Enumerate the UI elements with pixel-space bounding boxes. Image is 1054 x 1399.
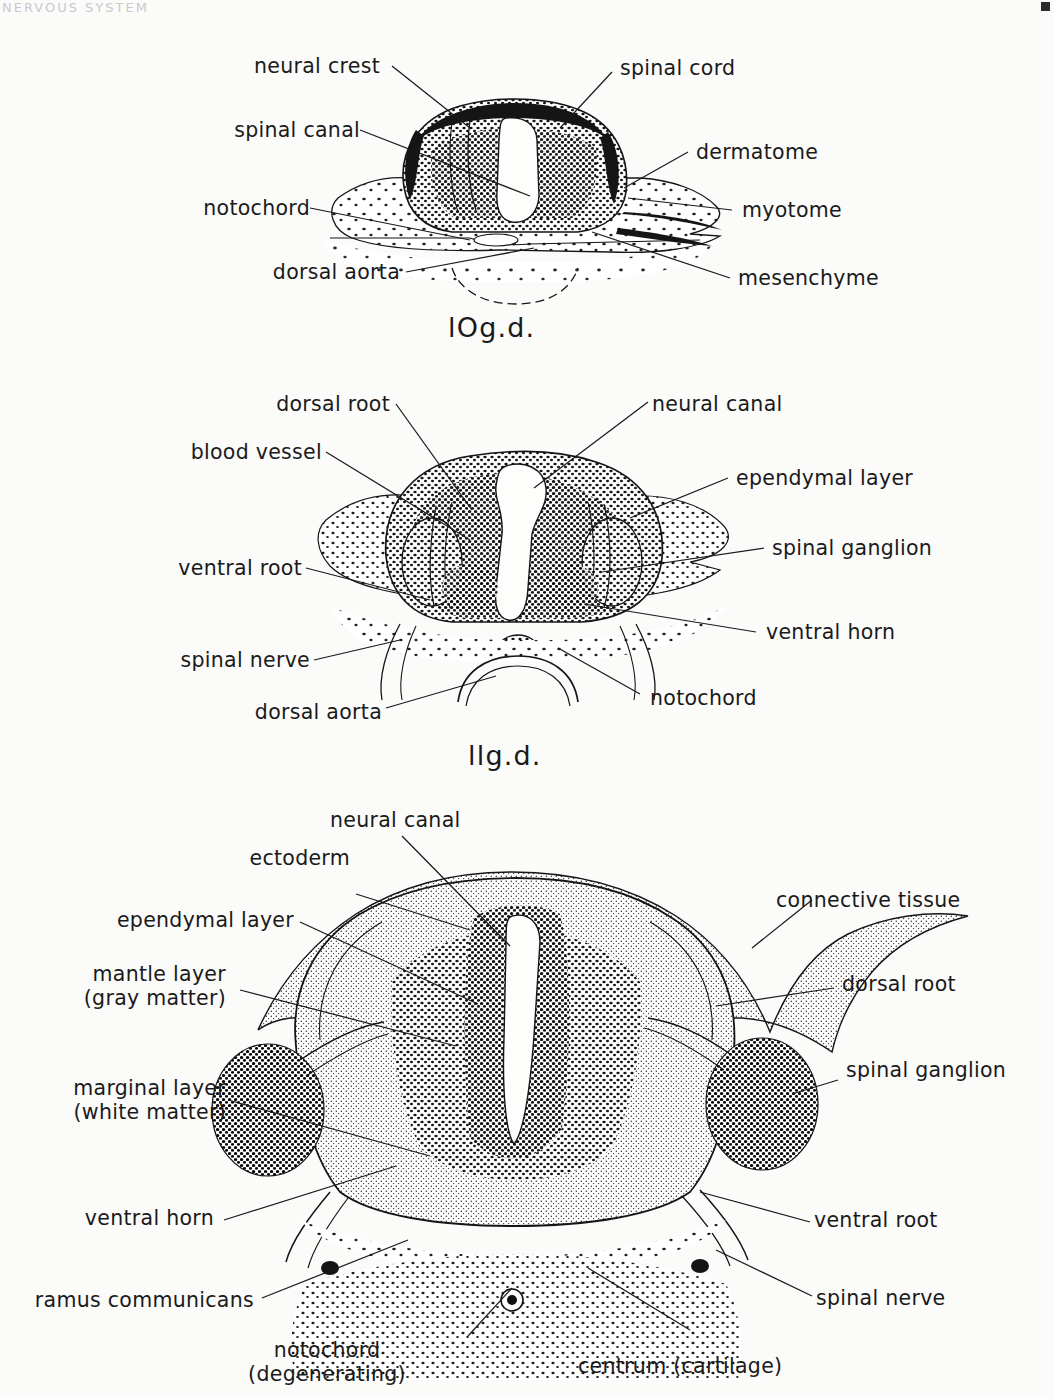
label-blood-vessel: blood vessel xyxy=(0,440,322,464)
label-neural-canal-3: neural canal xyxy=(330,808,460,832)
label-ependymal-layer-2: ependymal layer xyxy=(736,466,913,490)
label-ectoderm: ectoderm xyxy=(60,846,350,870)
figure-11gd-drawing xyxy=(318,451,728,706)
label-marginal-layer: marginal layer (white matter) xyxy=(0,1076,226,1124)
label-myotome: myotome xyxy=(742,198,842,222)
label-dorsal-root-3: dorsal root xyxy=(842,972,956,996)
label-spinal-canal: spinal canal xyxy=(20,118,360,142)
caption-11gd: llg.d. xyxy=(468,740,542,771)
label-mesenchyme: mesenchyme xyxy=(738,266,879,290)
label-spinal-ganglion-2: spinal ganglion xyxy=(772,536,932,560)
label-notochord-2: notochord xyxy=(650,686,757,710)
label-dorsal-root-2: dorsal root xyxy=(20,392,390,416)
label-notochord: notochord xyxy=(0,196,310,220)
label-spinal-nerve-3: spinal nerve xyxy=(816,1286,946,1310)
label-ventral-root-2: ventral root xyxy=(0,556,302,580)
label-ventral-root-3: ventral root xyxy=(814,1208,938,1232)
caption-10gd: lOg.d. xyxy=(448,312,535,343)
label-ramus-communicans: ramus communicans xyxy=(0,1288,254,1312)
label-dorsal-aorta: dorsal aorta xyxy=(60,260,400,284)
label-neural-crest: neural crest xyxy=(40,54,380,78)
label-mantle-layer: mantle layer (gray matter) xyxy=(0,962,226,1010)
label-notochord-degenerating: notochord (degenerating) xyxy=(202,1338,452,1386)
label-spinal-ganglion-3: spinal ganglion xyxy=(846,1058,1006,1082)
label-neural-canal-2: neural canal xyxy=(652,392,782,416)
label-spinal-nerve-2: spinal nerve xyxy=(0,648,310,672)
label-centrum-cartilage: centrum (cartilage) xyxy=(578,1354,782,1378)
label-dermatome: dermatome xyxy=(696,140,818,164)
label-ependymal-layer-3: ependymal layer xyxy=(0,908,294,932)
label-ventral-horn-2: ventral horn xyxy=(766,620,895,644)
label-ventral-horn-3: ventral horn xyxy=(0,1206,214,1230)
label-spinal-cord: spinal cord xyxy=(620,56,735,80)
label-dorsal-aorta-2: dorsal aorta xyxy=(0,700,382,724)
anatomy-plate: NERVOUS SYSTEM xyxy=(0,0,1054,1399)
label-connective-tissue: connective tissue xyxy=(776,888,960,912)
